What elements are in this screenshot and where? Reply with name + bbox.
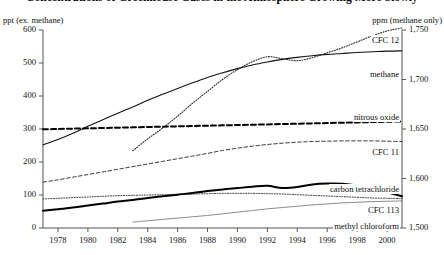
series-line-methane [133,28,402,151]
right-tick-1700: 1,700 [409,74,428,84]
series-label-cfc12: CFC 12 [371,35,400,45]
left-tick-300: 300 [23,123,36,133]
series-label-nitrous-oxide: nitrous oxide [353,112,400,122]
series-label-carbon-tetrachloride: carbon tetrachloride [329,184,400,194]
series-line-cfc-12 [43,51,402,145]
left-tick-500: 500 [23,57,36,67]
series-label-methyl-chloroform: methyl chloroform [333,221,400,231]
right-tick-1750: 1,750 [409,24,428,34]
series-label-methane: methane [369,69,400,79]
series-line-cfc-113 [133,201,402,222]
tick-marks [39,30,406,232]
left-tick-600: 600 [23,24,36,34]
chart-figure: Concentrations of Greenhouse Gases in th… [0,0,444,255]
left-tick-0: 0 [32,222,36,232]
x-tick-2000: 2000 [367,235,407,245]
series-line-cfc-11 [43,141,402,182]
left-tick-100: 100 [23,189,36,199]
right-tick-1650: 1,650 [409,123,428,133]
right-tick-1600: 1,600 [409,173,428,183]
series-label-cfc113: CFC 113 [367,205,400,215]
series-line-carbon-tetrachloride [43,193,402,199]
axis-lines [43,30,402,228]
left-tick-400: 400 [23,90,36,100]
right-tick-1500: 1,500 [409,222,428,232]
left-tick-200: 200 [23,156,36,166]
series-label-cfc11: CFC 11 [371,147,400,157]
